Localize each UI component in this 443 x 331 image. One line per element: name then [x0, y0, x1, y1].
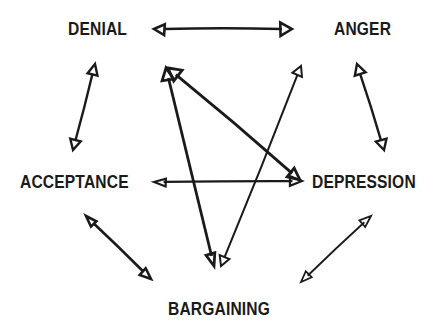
- edge-denial-acceptance: [75, 74, 92, 141]
- node-label-acceptance: ACCEPTANCE: [20, 172, 129, 191]
- arrowhead: [376, 139, 387, 150]
- grief-cycle-diagram: DENIAL ANGER ACCEPTANCE DEPRESSION BARGA…: [0, 0, 443, 331]
- arrowhead: [206, 253, 215, 266]
- edge-anger-depression: [360, 73, 381, 140]
- arrowheads-group: [70, 23, 386, 282]
- edge-denial-depression: [176, 75, 292, 174]
- node-label-denial: DENIAL: [68, 19, 127, 38]
- edge-bargaining-depression: [308, 222, 365, 275]
- edge-depression-acceptance: [164, 181, 293, 182]
- node-label-anger: ANGER: [334, 19, 391, 38]
- arrowhead: [88, 64, 98, 76]
- arrowhead: [292, 66, 302, 77]
- edge-layer: [0, 0, 443, 331]
- arrowhead: [70, 139, 80, 150]
- edge-denial-bargaining: [168, 78, 211, 256]
- edge-acceptance-bargaining: [93, 223, 144, 272]
- edges-group: [75, 28, 381, 275]
- arrowhead: [220, 255, 230, 266]
- edge-denial-anger: [164, 28, 282, 29]
- node-label-bargaining: BARGAINING: [168, 299, 270, 318]
- node-label-depression: DEPRESSION: [312, 172, 416, 191]
- arrowhead: [355, 64, 366, 76]
- arrowhead: [154, 24, 165, 35]
- edge-bargaining-anger: [224, 75, 297, 258]
- arrowhead: [280, 23, 292, 36]
